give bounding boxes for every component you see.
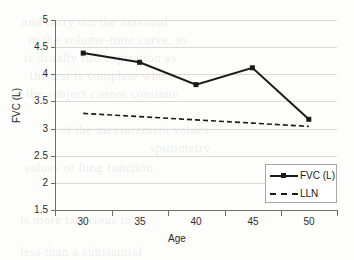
x-axis-tick [225,211,226,216]
data-point-marker [194,82,199,87]
data-point-marker [250,65,255,70]
y-axis-tick [51,74,55,75]
y-axis-tick [51,129,55,130]
y-axis-tick [51,47,55,48]
y-axis-tick-label: 2.5 [34,150,48,161]
data-point-marker [137,60,142,65]
y-axis-tick [51,20,55,21]
legend-label: LLN [300,188,318,199]
legend-label: FVC (L) [300,170,335,181]
y-axis-tick [51,101,55,102]
x-axis-title: Age [0,233,354,244]
chart-screenshot: and carry out the maximal in the volume-… [0,0,354,260]
y-axis-tick-label: 1.5 [34,204,48,215]
x-axis-tick [55,211,56,216]
x-axis-tick [168,211,169,216]
x-axis-tick-label: 35 [120,216,160,227]
y-axis-title: FVC (L) [11,76,22,136]
y-axis-tick-label: 3.5 [34,95,48,106]
x-axis-tick [337,211,338,216]
line-chart: 5 4.5 4 3.5 3 2.5 2 1.5 30 35 [0,0,354,260]
y-axis-tick-label: 5 [42,14,48,25]
data-point-marker [81,51,86,56]
legend-item-lln: LLN [266,185,338,202]
y-axis-tick-label: 4 [42,68,48,79]
x-axis-tick-label: 45 [233,216,273,227]
legend-key-solid-line-icon [270,170,298,182]
y-axis-tick-label: 2 [42,177,48,188]
y-axis-tick [51,183,55,184]
x-axis-tick-label: 40 [176,216,216,227]
legend-item-fvc: FVC (L) [266,167,338,184]
x-axis-tick [112,211,113,216]
series-lln-line [83,113,309,126]
x-axis-tick [281,211,282,216]
y-axis-tick [51,156,55,157]
series-fvc-markers [81,51,312,122]
x-axis-tick-label: 30 [63,216,103,227]
x-axis-tick-label: 50 [289,216,329,227]
y-axis-tick-label: 3 [42,123,48,134]
x-axis-line [55,210,338,211]
legend-key-dashed-line-icon [270,188,298,200]
y-axis-tick-label: 4.5 [34,41,48,52]
chart-legend: FVC (L) LLN [265,164,337,203]
y-axis-line [55,20,56,211]
data-point-marker [306,117,311,122]
